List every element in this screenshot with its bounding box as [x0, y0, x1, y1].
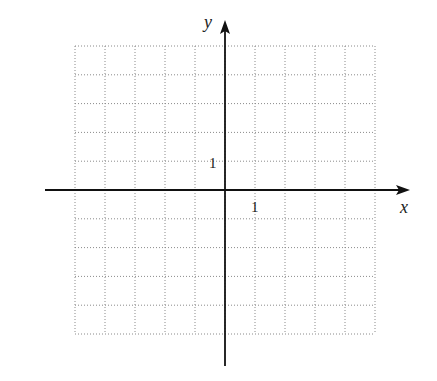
x-axis-label: x: [399, 197, 408, 217]
y-tick-label: 1: [209, 155, 217, 171]
x-tick-label: 1: [251, 199, 259, 215]
coordinate-plane: x y 1 1: [0, 0, 437, 381]
y-axis-label: y: [202, 12, 212, 32]
